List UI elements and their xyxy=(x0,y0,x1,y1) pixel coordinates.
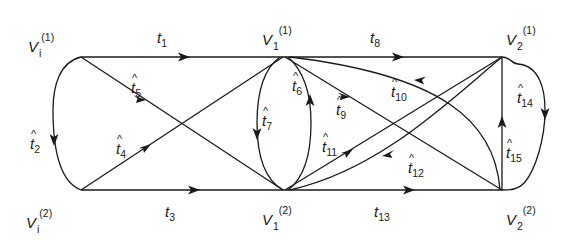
edge-label-t15: t15 xyxy=(506,144,522,164)
node-label-V22: V2(2) xyxy=(506,204,536,232)
edge-t3 xyxy=(81,186,283,195)
edge-label-t8: t8 xyxy=(370,29,380,49)
state-transition-graph: Vi(1) Vi(2) V1(1) V1(2) V2(1) V2(2) t1 ^… xyxy=(0,0,577,241)
node-label-Vi2: Vi(2) xyxy=(26,207,52,235)
node-label-V11: V1(1) xyxy=(262,24,292,52)
arrowhead-icon xyxy=(341,149,353,158)
edge-label-t1: t1 xyxy=(157,29,167,49)
node-label-V21: V2(1) xyxy=(506,24,536,52)
node-label-Vi1: Vi(1) xyxy=(28,31,54,59)
edge-t13 xyxy=(283,186,502,195)
edge-label-t3: t3 xyxy=(165,203,175,223)
edge-label-t11: t11 xyxy=(322,138,337,158)
arrowhead-icon xyxy=(414,77,426,85)
edge-t1 xyxy=(81,53,283,62)
node-label-V12: V1(2) xyxy=(262,204,292,232)
edge-t14 xyxy=(502,57,550,190)
edge-label-t10: t10 xyxy=(391,83,407,103)
edge-t15 xyxy=(498,57,507,190)
arrowhead-icon xyxy=(139,144,151,153)
edge-label-t12: t12 xyxy=(408,159,424,179)
edge-label-t14: t14 xyxy=(517,89,533,109)
arrowhead-icon xyxy=(382,150,394,158)
edge-label-t13: t13 xyxy=(374,203,390,223)
edge-t2 xyxy=(50,57,82,190)
